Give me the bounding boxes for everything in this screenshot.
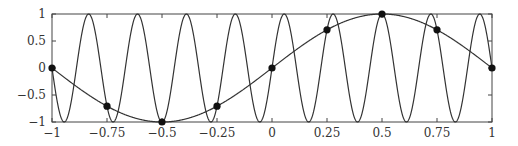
y-tick-label: −0.5 — [17, 88, 46, 102]
aliasing-chart: −1−0.75−0.5−0.2500.250.50.751−1−0.500.51 — [0, 0, 518, 146]
x-tick-label: −0.5 — [147, 126, 176, 140]
sample-markers — [48, 10, 495, 125]
y-tick-label: 0.5 — [27, 34, 46, 48]
sample-point — [103, 103, 110, 110]
sample-point — [48, 64, 55, 71]
sample-point — [433, 26, 440, 33]
x-tick-label: 0 — [268, 126, 276, 140]
sample-point — [268, 64, 275, 71]
sample-point — [488, 64, 495, 71]
sample-point — [323, 26, 330, 33]
x-tick-label: −0.25 — [199, 126, 236, 140]
sample-point — [213, 103, 220, 110]
y-tick-label: 1 — [38, 7, 46, 21]
x-tick-label: 0.25 — [314, 126, 341, 140]
x-tick-label: 0.75 — [424, 126, 451, 140]
y-tick-label: −1 — [28, 115, 46, 129]
y-tick-label: 0 — [38, 61, 46, 75]
x-tick-label: 1 — [488, 126, 496, 140]
x-tick-label: −0.75 — [89, 126, 126, 140]
sample-point — [378, 10, 385, 17]
x-tick-label: 0.5 — [372, 126, 391, 140]
sample-point — [158, 118, 165, 125]
tick-labels: −1−0.75−0.5−0.2500.250.50.751−1−0.500.51 — [17, 7, 496, 140]
